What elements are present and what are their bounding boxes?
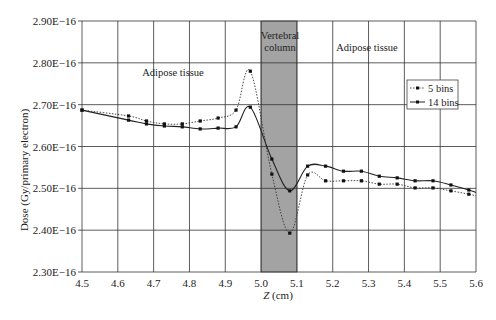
data-point-marker	[145, 119, 148, 122]
y-tick-label: 2.30E−16	[33, 266, 77, 278]
data-point-marker	[127, 114, 130, 117]
data-point-marker	[378, 183, 381, 186]
data-point-marker	[467, 188, 470, 191]
legend: 5 bins 14 bins	[407, 80, 459, 109]
y-axis-ticks: 2.30E−162.40E−162.50E−162.60E−162.70E−16…	[33, 15, 82, 278]
data-point-marker	[306, 165, 309, 168]
y-tick-label: 2.90E−16	[33, 15, 77, 27]
x-tick-label: 5.1	[290, 277, 304, 289]
x-tick-label: 5.3	[362, 277, 376, 289]
y-tick-label: 2.50E−16	[33, 182, 77, 194]
data-point-marker	[449, 183, 452, 186]
x-tick-label: 4.7	[147, 277, 161, 289]
y-axis-title: Dose (Gy/primary electron)	[18, 109, 31, 232]
y-tick-label: 2.60E−16	[33, 141, 77, 153]
data-point-marker	[249, 70, 252, 73]
data-point-marker	[306, 173, 309, 176]
data-point-marker	[270, 157, 273, 160]
x-tick-label: 4.6	[111, 277, 125, 289]
y-tick-label: 2.40E−16	[33, 224, 77, 236]
adipose-tissue-left-label: Adipose tissue	[142, 67, 204, 78]
data-point-marker	[414, 179, 417, 182]
x-tick-label: 5.2	[326, 277, 340, 289]
data-point-marker	[163, 124, 166, 127]
x-axis-unit: (cm)	[269, 289, 293, 302]
data-point-marker	[431, 179, 434, 182]
x-axis-title: Z (cm)	[263, 289, 293, 302]
x-tick-label: 5.5	[433, 277, 447, 289]
data-point-marker	[396, 176, 399, 179]
data-point-marker	[80, 109, 83, 112]
x-tick-label: 5.4	[397, 277, 411, 289]
data-point-marker	[342, 179, 345, 182]
vertebral-label-line2: column	[264, 42, 296, 53]
x-tick-label: 5.6	[469, 277, 483, 289]
vertebral-label-line1: Vertebral	[261, 30, 300, 41]
legend-5bins-marker-icon	[416, 87, 419, 90]
data-point-marker	[324, 165, 327, 168]
data-point-marker	[360, 170, 363, 173]
data-point-marker	[217, 126, 220, 129]
legend-14bins-label: 14 bins	[428, 97, 459, 108]
x-tick-label: 4.5	[75, 277, 89, 289]
data-point-marker	[127, 119, 130, 122]
data-point-marker	[467, 193, 470, 196]
data-point-marker	[181, 125, 184, 128]
data-point-marker	[324, 179, 327, 182]
data-point-marker	[449, 189, 452, 192]
data-point-marker	[288, 231, 291, 234]
y-tick-label: 2.70E−16	[33, 99, 77, 111]
data-point-marker	[199, 119, 202, 122]
legend-14bins-marker-icon	[416, 101, 419, 104]
data-point-marker	[396, 183, 399, 186]
data-point-marker	[234, 125, 237, 128]
y-tick-label: 2.80E−16	[33, 57, 77, 69]
data-point-marker	[270, 173, 273, 176]
data-point-marker	[378, 175, 381, 178]
adipose-tissue-right-label: Adipose tissue	[336, 42, 398, 53]
legend-5bins-label: 5 bins	[428, 83, 453, 94]
data-point-marker	[217, 116, 220, 119]
data-point-marker	[249, 106, 252, 109]
x-tick-label: 4.8	[183, 277, 197, 289]
dose-line-chart: 2.30E−162.40E−162.50E−162.60E−162.70E−16…	[0, 0, 496, 320]
data-point-marker	[234, 109, 237, 112]
data-point-marker	[199, 127, 202, 130]
data-point-marker	[414, 186, 417, 189]
data-point-marker	[288, 189, 291, 192]
data-point-marker	[145, 122, 148, 125]
data-point-marker	[431, 186, 434, 189]
data-point-marker	[360, 179, 363, 182]
x-tick-label: 4.9	[218, 277, 232, 289]
data-point-marker	[181, 122, 184, 125]
data-point-marker	[342, 170, 345, 173]
x-tick-label: 5.0	[254, 277, 268, 289]
x-axis-ticks: 4.54.64.74.84.95.05.15.25.35.45.55.6	[75, 277, 483, 289]
